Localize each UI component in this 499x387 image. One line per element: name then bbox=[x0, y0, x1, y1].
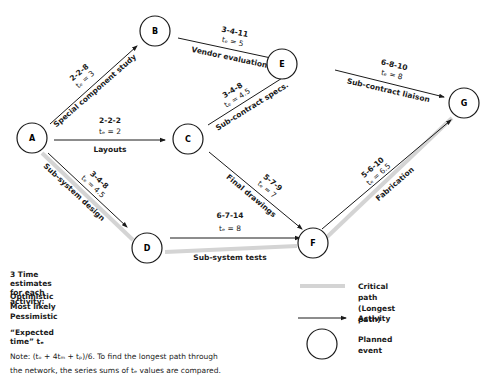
node-label-d: D bbox=[144, 244, 151, 253]
node-label-a: A bbox=[29, 134, 36, 143]
activity-name-df: Sub-system tests bbox=[193, 253, 267, 262]
note-line-2: the network, the series sums of tₑ value… bbox=[10, 364, 310, 378]
legend-critical-path-label: Critical path bbox=[358, 281, 395, 303]
activity-te-df: tₑ = 8 bbox=[219, 224, 241, 233]
legend-planned-event-circle bbox=[307, 329, 337, 359]
legend-activity-label: Activity bbox=[358, 313, 390, 324]
activity-arrow-ce bbox=[208, 75, 287, 125]
node-label-g: G bbox=[461, 99, 468, 108]
node-label-c: C bbox=[185, 135, 191, 144]
expected-time-label: “Expected time” tₑ bbox=[10, 328, 54, 346]
node-label-f: F bbox=[310, 239, 315, 248]
estimates-list: Optimistic Most likely Pessimistic bbox=[10, 292, 58, 322]
node-label-e: E bbox=[279, 60, 284, 69]
activity-estimates-ac: 2-2-2 bbox=[99, 116, 121, 125]
legend-planned-event-label: Planned event bbox=[358, 334, 392, 356]
activity-estimates-df: 6-7-14 bbox=[216, 211, 243, 220]
note-line-1: Note: (tₒ + 4tₘ + tₚ)/6. To find the lon… bbox=[10, 350, 310, 364]
pert-network-diagram: A B C D E F G 2-2-8 tₑ = 3 Special compo… bbox=[0, 0, 499, 387]
activity-arrow-ad bbox=[48, 153, 127, 227]
activity-name-ab: Special component study bbox=[52, 52, 138, 129]
node-label-b: B bbox=[152, 27, 158, 36]
most-likely-label: Most likely bbox=[10, 302, 58, 312]
optimistic-label: Optimistic bbox=[10, 292, 58, 302]
activity-arrow-fg bbox=[322, 120, 451, 229]
pessimistic-label: Pessimistic bbox=[10, 312, 58, 322]
activity-name-ac: Layouts bbox=[93, 145, 127, 154]
formula-note: Note: (tₒ + 4tₘ + tₚ)/6. To find the lon… bbox=[10, 350, 310, 378]
activity-te-ac: tₑ = 2 bbox=[99, 127, 121, 136]
